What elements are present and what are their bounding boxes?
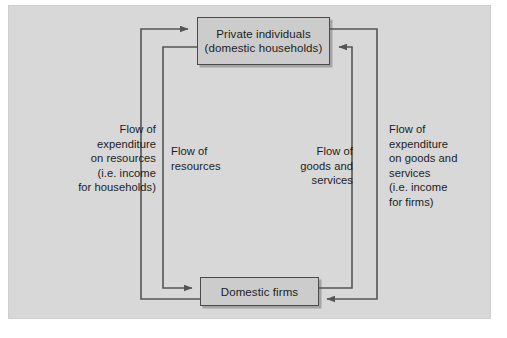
node-private-individuals: Private individuals (domestic households… <box>197 17 330 65</box>
node-households-line1: Private individuals <box>216 28 311 40</box>
node-domestic-firms: Domestic firms <box>200 277 319 306</box>
node-households-line2: (domestic households) <box>205 41 323 55</box>
label-expenditure-on-resources: Flow of expenditure on resources (i.e. i… <box>56 122 164 195</box>
circular-flow-diagram: Private individuals (domestic households… <box>0 0 507 338</box>
label-flow-of-resources: Flow of resources <box>171 144 261 173</box>
node-firms-line1: Domestic firms <box>221 285 298 299</box>
label-expenditure-on-goods-and-services: Flow of expenditure on goods and service… <box>389 122 501 210</box>
label-flow-of-goods-and-services: Flow of goods and services <box>268 144 362 188</box>
